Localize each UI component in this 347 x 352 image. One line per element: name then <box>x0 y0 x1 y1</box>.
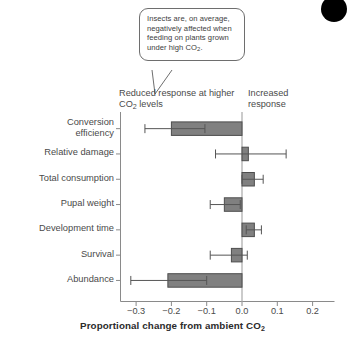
x-tick-label-4: 0.1 <box>262 306 292 316</box>
x-tick-label-0: −0.3 <box>121 306 151 316</box>
y-axis-label-1: Relative damage <box>6 147 114 157</box>
x-tick-label-1: −0.2 <box>156 306 186 316</box>
y-axis-label-0: Conversion efficiency <box>46 117 114 138</box>
x-tick-label-2: −0.1 <box>192 306 222 316</box>
y-axis-label-2: Total consumption <box>6 173 114 183</box>
y-axis-label-3: Pupal weight <box>6 198 114 208</box>
x-tick-label-5: 0.2 <box>298 306 328 316</box>
x-axis-title: Proportional change from ambient CO2 <box>0 320 345 332</box>
y-axis-label-6: Abundance <box>6 274 114 284</box>
y-axis-label-5: Survival <box>6 249 114 259</box>
x-tick-label-3: 0.0 <box>227 306 257 316</box>
y-axis-label-4: Development time <box>6 223 114 233</box>
